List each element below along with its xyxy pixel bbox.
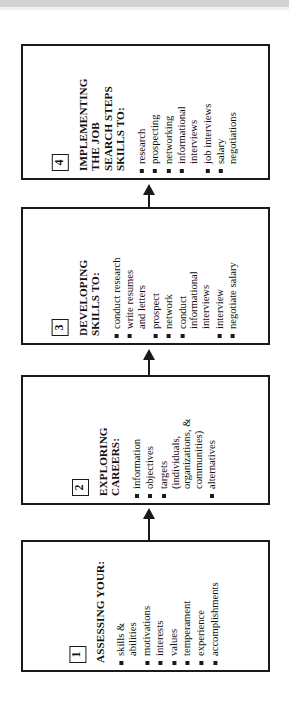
- list-item-label: objectives: [144, 446, 156, 489]
- square-bullet-icon: [180, 334, 184, 338]
- list-item: temperament: [181, 582, 193, 665]
- stage-1-heading: ASSESSING YOUR:: [94, 561, 106, 663]
- list-item: informational interviews: [176, 104, 199, 173]
- square-bullet-icon: [212, 661, 216, 665]
- list-item: networking: [162, 104, 174, 173]
- list-item: interests: [154, 582, 166, 665]
- square-bullet-icon: [134, 494, 138, 498]
- connector-arrow-3-to-4: [143, 184, 156, 207]
- stage-box-4: 4 IMPLEMENTING THE JOB SEARCH STEPS SKIL…: [21, 44, 270, 180]
- square-bullet-icon: [119, 661, 123, 665]
- stage-3-item-list: conduct research write resumes and lette…: [110, 258, 240, 338]
- list-item: targets (individuals, organizations, & c…: [158, 419, 204, 498]
- stage-1-content: 1 ASSESSING YOUR: skills & abilities mot…: [69, 547, 222, 665]
- list-item-label: targets (individuals, organizations, & c…: [158, 419, 204, 489]
- stage-3-number-badge: 3: [51, 319, 68, 336]
- square-bullet-icon: [172, 661, 176, 665]
- stage-3-heading: DEVELOPING SKILLS TO:: [76, 260, 101, 336]
- list-item-label: job interviews: [201, 104, 213, 164]
- stage-box-3: 3 DEVELOPING SKILLS TO: conduct research…: [21, 207, 270, 345]
- list-item-label: write resumes and letters: [124, 270, 147, 329]
- arrow-shaft: [148, 190, 150, 207]
- list-item-label: prospecting: [149, 115, 161, 164]
- list-item: research: [135, 104, 147, 173]
- square-bullet-icon: [219, 169, 223, 173]
- connector-arrow-1-to-2: [143, 508, 156, 540]
- square-bullet-icon: [185, 661, 189, 665]
- square-bullet-icon: [139, 169, 143, 173]
- square-bullet-icon: [230, 334, 234, 338]
- list-item: motivations: [141, 582, 153, 665]
- list-item: salary negotiations: [215, 104, 238, 173]
- square-bullet-icon: [180, 169, 184, 173]
- list-item: negotiate salary: [226, 258, 238, 338]
- stage-2-item-list: information objectives targets (individu…: [130, 419, 219, 498]
- list-item-label: accomplishments: [208, 582, 220, 656]
- square-bullet-icon: [153, 334, 157, 338]
- list-item: alternatives: [206, 419, 218, 498]
- list-item-label: conduct informational interviews: [176, 271, 211, 329]
- list-item-label: alternatives: [206, 440, 218, 489]
- career-planning-flowchart: 4 IMPLEMENTING THE JOB SEARCH STEPS SKIL…: [0, 0, 289, 706]
- list-item: accomplishments: [208, 582, 220, 665]
- list-item: objectives: [144, 419, 156, 498]
- square-bullet-icon: [210, 494, 214, 498]
- list-item-label: research: [135, 129, 147, 164]
- square-bullet-icon: [128, 334, 132, 338]
- list-item: prospecting: [149, 104, 161, 173]
- list-item-label: experience: [195, 610, 207, 656]
- list-item: job interviews: [201, 104, 213, 173]
- list-item-label: information: [130, 439, 142, 489]
- list-item: conduct informational interviews: [176, 258, 211, 338]
- square-bullet-icon: [162, 494, 166, 498]
- list-item-label: prospect: [149, 293, 161, 329]
- square-bullet-icon: [166, 334, 170, 338]
- stage-4-item-list: research prospecting networking informat…: [135, 104, 240, 173]
- stage-4-heading: IMPLEMENTING THE JOB SEARCH STEPS SKILLS…: [76, 78, 126, 171]
- list-item-label: network: [162, 294, 174, 329]
- square-bullet-icon: [148, 494, 152, 498]
- list-item-label: values: [168, 629, 180, 656]
- square-bullet-icon: [114, 334, 118, 338]
- list-item-label: temperament: [181, 601, 193, 656]
- square-bullet-icon: [158, 661, 162, 665]
- stage-1-item-list: skills & abilities motivations interests…: [115, 582, 222, 665]
- list-item: values: [168, 582, 180, 665]
- list-item-label: networking: [162, 116, 174, 164]
- stage-box-2: 2 EXPLORING CAREERS: information objecti…: [21, 375, 270, 505]
- list-item-label: motivations: [141, 606, 153, 656]
- list-item-label: salary negotiations: [215, 112, 238, 164]
- arrow-shaft: [148, 355, 150, 375]
- list-item: write resumes and letters: [124, 258, 147, 338]
- list-item: interview: [213, 258, 225, 338]
- list-item-label: interests: [154, 621, 166, 656]
- list-item: information: [130, 419, 142, 498]
- list-item: skills & abilities: [115, 582, 138, 665]
- stage-box-1: 1 ASSESSING YOUR: skills & abilities mot…: [21, 540, 270, 672]
- list-item-label: negotiate salary: [226, 262, 238, 329]
- list-item-label: interview: [213, 289, 225, 329]
- stage-1-number-badge: 1: [69, 646, 86, 663]
- list-item-label: informational interviews: [176, 106, 199, 164]
- list-item-label: skills & abilities: [115, 622, 138, 656]
- stage-3-content: 3 DEVELOPING SKILLS TO: conduct research…: [51, 214, 240, 338]
- arrow-shaft: [148, 514, 150, 540]
- list-item: conduct research: [110, 258, 122, 338]
- list-item: prospect: [149, 258, 161, 338]
- stage-2-number-badge: 2: [72, 479, 89, 496]
- square-bullet-icon: [145, 661, 149, 665]
- square-bullet-icon: [166, 169, 170, 173]
- stage-2-heading: EXPLORING CAREERS:: [97, 427, 122, 496]
- square-bullet-icon: [217, 334, 221, 338]
- list-item-label: conduct research: [110, 258, 122, 329]
- square-bullet-icon: [199, 661, 203, 665]
- square-bullet-icon: [205, 169, 209, 173]
- list-item: network: [162, 258, 174, 338]
- connector-arrow-2-to-3: [143, 349, 156, 375]
- list-item: experience: [195, 582, 207, 665]
- square-bullet-icon: [153, 169, 157, 173]
- stage-4-content: 4 IMPLEMENTING THE JOB SEARCH STEPS SKIL…: [51, 51, 239, 173]
- stage-2-content: 2 EXPLORING CAREERS: information objecti…: [72, 382, 220, 498]
- stage-4-number-badge: 4: [51, 154, 68, 171]
